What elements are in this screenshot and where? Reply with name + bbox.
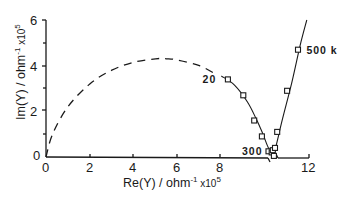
data-point-square — [271, 153, 276, 158]
y-axis — [42, 20, 46, 157]
y-tick-label: 6 — [30, 13, 37, 28]
impedance-chart: 6 4 2 0 0 2 4 6 8 12 Re(Y) / ohm-1 x105 … — [0, 0, 355, 197]
data-point-square — [252, 118, 257, 123]
y-tick-label: 2 — [30, 104, 37, 119]
data-markers — [225, 47, 300, 158]
data-point-square — [285, 88, 290, 93]
data-point-square — [273, 145, 278, 150]
frequency-annotation: 500 k — [306, 44, 337, 56]
y-tick-labels: 6 4 2 0 — [30, 13, 40, 163]
x-tick-label: 6 — [173, 160, 180, 175]
data-point-square — [259, 134, 264, 139]
extrapolated-semicircle-dashed — [46, 58, 217, 157]
x-axis-title: Re(Y) / ohm-1 x105 — [123, 175, 221, 190]
x-tick-labels: 0 2 4 6 8 12 — [42, 160, 315, 175]
y-axis-title: Im(Y) / ohm-1 x105 — [13, 24, 28, 120]
x-tick-label: 8 — [216, 160, 223, 175]
y-tick-label: 4 — [30, 59, 37, 74]
data-point-square — [225, 77, 230, 82]
origin-y-label: 0 — [33, 148, 40, 163]
x-tick-label: 2 — [86, 160, 93, 175]
x-tick-label: 0 — [42, 160, 49, 175]
frequency-annotation: 300 — [242, 145, 263, 157]
frequency-annotations: 20300500 k — [203, 44, 338, 158]
frequency-annotation: 20 — [203, 73, 217, 85]
data-point-square — [296, 47, 301, 52]
x-tick-label: 12 — [301, 160, 315, 175]
x-tick-label: 4 — [129, 160, 136, 175]
data-point-square — [275, 129, 280, 134]
data-point-square — [241, 93, 246, 98]
